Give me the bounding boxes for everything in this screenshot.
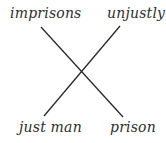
chiasmus-diagram: imprisons unjustly just man prison xyxy=(0,0,166,143)
label-bottom-left: just man xyxy=(19,119,82,135)
line-unjustly-to-just-man xyxy=(44,26,120,116)
label-top-right: unjustly xyxy=(107,5,165,21)
label-bottom-right: prison xyxy=(110,119,156,135)
label-top-left: imprisons xyxy=(10,5,82,21)
